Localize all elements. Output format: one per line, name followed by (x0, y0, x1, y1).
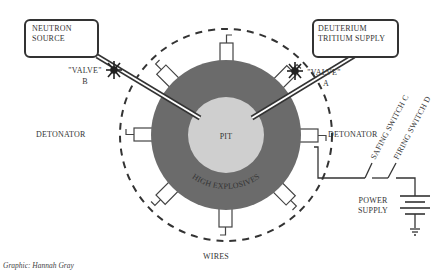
deuterium-label-1: DEUTERIUM (318, 24, 367, 33)
wires-label: WIRES (203, 252, 229, 261)
detonator-left-label: DETONATOR (36, 130, 86, 139)
valve-a-icon (287, 62, 303, 80)
valve-a-label-2: A (323, 79, 329, 88)
deuterium-label-2: TRITIUM SUPPLY (318, 34, 385, 43)
valve-b-icon (106, 61, 122, 79)
valve-a-label-1: "VALVE" (307, 68, 340, 77)
weapon-diagram: HIGH EXPLOSIVES PIT NEUTRON SOURCE DEUTE… (0, 0, 448, 277)
power-supply-label-1: POWER (359, 196, 388, 205)
neutron-source-label-2: SOURCE (32, 34, 65, 43)
valve-b-label-2: B (82, 77, 88, 86)
pit-label: PIT (220, 132, 233, 141)
graphic-credit: Graphic: Hannah Gray (3, 261, 74, 270)
firing-circuit (314, 147, 430, 235)
detonator-right-label: DETONATOR (328, 130, 378, 139)
neutron-source-label-1: NEUTRON (32, 24, 72, 33)
power-supply-label-2: SUPPLY (358, 206, 388, 215)
valve-b-label-1: "VALVE" (68, 66, 101, 75)
